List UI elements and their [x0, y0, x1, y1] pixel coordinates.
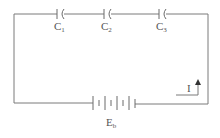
current-label: I	[187, 82, 191, 94]
capacitor-c2: C2	[101, 9, 112, 34]
current-arrow-icon: I	[176, 79, 201, 95]
svg-text:C3: C3	[156, 20, 167, 34]
svg-text:C2: C2	[101, 20, 112, 34]
capacitor-c1: C1	[54, 9, 65, 34]
capacitor-c1-subscript: 1	[61, 26, 65, 34]
circuit-diagram: C1 C2 C3 Eb I	[0, 0, 220, 138]
capacitor-c1-label: C	[54, 20, 61, 32]
capacitor-c3-label: C	[156, 20, 163, 32]
capacitor-c3: C3	[156, 9, 167, 34]
svg-text:Eb: Eb	[106, 116, 117, 130]
capacitor-c2-label: C	[101, 20, 108, 32]
capacitor-c3-subscript: 3	[163, 26, 167, 34]
battery-icon: Eb	[93, 96, 135, 130]
svg-text:C1: C1	[54, 20, 65, 34]
battery-subscript: b	[113, 122, 117, 130]
capacitor-c2-subscript: 2	[108, 26, 112, 34]
